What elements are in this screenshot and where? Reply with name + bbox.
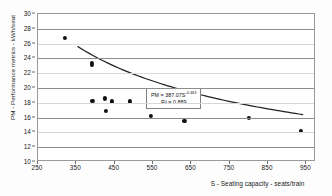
y-tick-mark xyxy=(32,116,35,117)
x-tick-mark xyxy=(229,161,230,164)
x-tick-mark xyxy=(114,161,115,164)
x-axis: 250350450550650750850950 xyxy=(37,161,315,175)
gridline xyxy=(38,103,314,104)
x-tick-mark xyxy=(305,161,306,164)
y-tick-mark xyxy=(32,131,35,132)
x-tick-label: 750 xyxy=(223,164,234,171)
x-tick-label: 550 xyxy=(147,164,158,171)
y-tick-mark xyxy=(32,101,35,102)
x-tick-label: 650 xyxy=(185,164,196,171)
trendline-equation-box: PM = 387.07S-0.463 R² = 0.889 xyxy=(146,88,201,109)
y-tick-mark xyxy=(32,72,35,73)
y-tick-mark xyxy=(32,161,35,162)
x-tick-mark xyxy=(37,161,38,164)
y-tick-label: 16 xyxy=(24,113,31,120)
y-tick-label: 20 xyxy=(24,84,31,91)
gridline xyxy=(38,147,314,148)
trendline xyxy=(38,14,314,160)
x-tick-label: 850 xyxy=(262,164,273,171)
gridline xyxy=(38,29,314,30)
y-tick-label: 30 xyxy=(24,10,31,17)
y-tick-mark xyxy=(32,146,35,147)
x-tick-label: 250 xyxy=(32,164,43,171)
x-axis-title: S - Seating capacity - seats/train xyxy=(185,180,330,187)
y-tick-mark xyxy=(32,13,35,14)
y-tick-label: 14 xyxy=(24,128,31,135)
gridline xyxy=(38,73,314,74)
x-tick-label: 450 xyxy=(108,164,119,171)
y-tick-label: 10 xyxy=(24,158,31,165)
x-tick-mark xyxy=(75,161,76,164)
chart-container: 1012141618202224262830 PM = 387.07S-0.46… xyxy=(0,0,332,196)
gridline xyxy=(38,132,314,133)
gridline xyxy=(38,44,314,45)
x-tick-mark xyxy=(190,161,191,164)
x-tick-mark xyxy=(152,161,153,164)
y-tick-mark xyxy=(32,57,35,58)
y-tick-label: 12 xyxy=(24,143,31,150)
y-axis: 1012141618202224262830 xyxy=(0,13,35,161)
y-tick-label: 22 xyxy=(24,69,31,76)
y-tick-label: 18 xyxy=(24,98,31,105)
plot-area: PM = 387.07S-0.463 R² = 0.889 xyxy=(37,13,315,161)
gridline xyxy=(38,88,314,89)
x-tick-label: 950 xyxy=(300,164,311,171)
y-tick-label: 24 xyxy=(24,54,31,61)
y-tick-label: 26 xyxy=(24,39,31,46)
x-tick-mark xyxy=(267,161,268,164)
gridline xyxy=(38,58,314,59)
equation-text: PM = 387.07S-0.463 xyxy=(151,91,196,99)
y-tick-mark xyxy=(32,27,35,28)
y-tick-mark xyxy=(32,42,35,43)
y-axis-title: PM - Performance metrics - kWh/seat xyxy=(9,0,16,142)
x-tick-label: 350 xyxy=(70,164,81,171)
gridline xyxy=(38,118,314,119)
y-tick-mark xyxy=(32,87,35,88)
y-tick-label: 28 xyxy=(24,24,31,31)
